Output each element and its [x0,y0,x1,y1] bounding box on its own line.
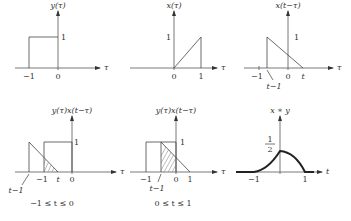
result-curve [236,151,314,172]
tick-label: 0 [173,175,178,184]
tick-label: −1 [23,72,35,81]
peak-label-denominator: 2 [267,145,272,154]
height-label: 1 [61,33,66,42]
peak-label-numerator: 1 [267,135,272,144]
panel-y-tau: y(τ) τ −1 0 1 [15,1,109,81]
height-label: 1 [294,33,299,42]
tick-label: t [56,175,60,184]
panel-title: x(t−τ) [275,1,300,10]
pulse-signal [29,37,58,68]
panel-x-t-minus-tau: x(t−τ) τ −1 0 t 1 t−1 [244,1,342,91]
ramp-signal [174,37,201,68]
panel-x-tau: x(τ) τ 0 1 1 [130,1,226,81]
pulse-signal [44,142,72,172]
axis-var-label: τ [221,167,226,176]
annotation-label: t−1 [8,186,23,195]
annotation-pointer [267,70,273,80]
axis-var-label: t [326,167,330,176]
axis-var-label: τ [221,63,226,72]
tick-label: 1 [198,72,203,81]
overlap-hatch [152,140,194,172]
panel-convolution-result: x ∗ y t −1 1 1 2 [236,106,330,184]
height-label: 1 [180,138,185,147]
panel-title: x(τ) [166,1,181,10]
case-caption: −1 ≤ t ≤ 0 [30,199,74,208]
tick-label: −1 [251,72,263,81]
tick-label: t [301,72,305,81]
flipped-ramp-signal [29,142,58,172]
tick-label: −1 [248,175,260,184]
panel-title: y(τ) [49,1,65,10]
tick-label: 0 [285,72,290,81]
panel-product-case1: y(τ)x(t−τ) τ −1 t 0 1 t−1 −1 ≤ t ≤ 0 [8,106,125,208]
tick-label: 1 [302,175,307,184]
annotation-label: t−1 [266,82,281,91]
panel-title: y(τ)x(t−τ) [51,106,92,115]
annotation-pointer [22,174,29,185]
annotation-pointer [158,174,161,182]
tick-label: −1 [140,175,152,184]
tick-label: 0 [69,175,74,184]
axis-var-label: τ [337,63,342,72]
axis-var-label: τ [104,63,109,72]
panel-title: y(τ)x(t−τ) [155,106,196,115]
tick-label: 1 [187,175,192,184]
tick-label: 0 [55,72,60,81]
height-label: 1 [74,138,79,147]
convolution-diagram: y(τ) τ −1 0 1 x(τ) τ 0 1 1 x(t−τ) τ −1 0… [0,0,351,221]
axis-var-label: τ [120,167,125,176]
annotation-label: t−1 [149,184,164,193]
tick-label: −1 [36,175,48,184]
panel-title: x ∗ y [270,106,290,115]
tick-label: 0 [171,72,176,81]
case-caption: 0 ≤ t ≤ 1 [155,199,192,208]
flipped-ramp-signal [161,142,190,172]
height-label: 1 [166,33,171,42]
panel-product-case2: y(τ)x(t−τ) τ −1 0 1 1 t−1 0 ≤ t ≤ 1 [130,106,226,208]
